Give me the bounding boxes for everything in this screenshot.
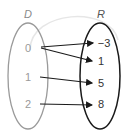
mapping-arrow xyxy=(41,48,92,61)
range-element: 1 xyxy=(98,55,104,67)
domain-label: D xyxy=(24,8,32,20)
range-element: −3 xyxy=(98,37,111,49)
domain-element: 0 xyxy=(25,42,31,54)
range-label: R xyxy=(97,8,105,20)
range-element: 5 xyxy=(98,77,104,89)
mapping-arrow xyxy=(41,43,93,47)
range-element: 8 xyxy=(98,98,104,110)
domain-element: 2 xyxy=(25,98,31,110)
domain-element: 1 xyxy=(25,71,31,83)
mapping-arrow xyxy=(40,104,92,105)
mapping-diagram: D R 0 1 2 −3 1 5 8 xyxy=(0,0,130,139)
